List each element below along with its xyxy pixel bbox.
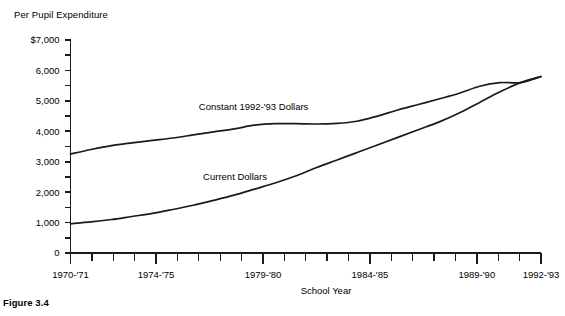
series-label-1: Constant 1992-'93 Dollars (199, 101, 309, 112)
line-chart: $7,0006,0005,0004,0003,0002,0001,0000 19… (0, 0, 565, 300)
y-axis-tick-label: $7,000 (30, 34, 59, 45)
y-axis-tick-label: 0 (54, 247, 59, 258)
y-axis-tick-label: 4,000 (36, 126, 60, 137)
x-axis-tick-labels: 1970-'711974-'751979-'801984-'851989-'90… (52, 269, 559, 280)
x-axis-tick-label: 1984-'85 (352, 269, 389, 280)
x-axis-ticks (71, 253, 542, 264)
x-axis-tick-label: 1970-'71 (52, 269, 89, 280)
y-axis-tick-label: 6,000 (36, 65, 60, 76)
x-axis-tick-label: 1989-'90 (458, 269, 495, 280)
data-series-group (71, 77, 542, 224)
y-axis-minor-ticks (65, 55, 71, 238)
y-axis-tick-label: 1,000 (36, 217, 60, 228)
series-inline-labels: Constant 1992-'93 DollarsCurrent Dollars (199, 101, 309, 182)
y-axis-tick-label: 3,000 (36, 156, 60, 167)
series-line-1 (71, 77, 542, 155)
y-axis-tick-label: 2,000 (36, 187, 60, 198)
x-axis-tick-label: 1979-'80 (245, 269, 282, 280)
x-axis-tick-label: 1974-'75 (138, 269, 175, 280)
x-axis-title: School Year (301, 285, 352, 296)
y-axis-tick-label: 5,000 (36, 95, 60, 106)
series-label-2: Current Dollars (203, 171, 267, 182)
figure-caption: Figure 3.4 (3, 297, 49, 308)
y-axis-tick-labels: $7,0006,0005,0004,0003,0002,0001,0000 (30, 34, 59, 258)
series-line-2 (71, 77, 542, 224)
x-axis-tick-label: 1992-'93 (523, 269, 560, 280)
figure-container: Per Pupil Expenditure $7,0006,0005,0004,… (0, 0, 565, 316)
